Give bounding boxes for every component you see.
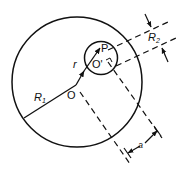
R2-dimension-arrow-bottom <box>162 48 168 62</box>
dashed-extension-lower <box>116 38 176 66</box>
label-P: P <box>101 42 108 54</box>
geometry-diagram: R1 O r P O' R2 a <box>0 0 182 171</box>
a-dimension-arrow-right <box>145 131 157 143</box>
a-dimension-tick-right <box>154 126 161 136</box>
vector-r-line <box>76 71 84 85</box>
dashed-extension-upper <box>108 22 168 50</box>
R2-dimension-arrow-top <box>145 14 151 27</box>
label-a: a <box>138 140 143 150</box>
a-dimension-tick-left <box>124 148 131 158</box>
label-R1: R1 <box>34 91 46 104</box>
label-r: r <box>73 58 78 70</box>
label-O: O <box>67 89 76 101</box>
right-angle-mark <box>106 58 112 62</box>
label-O-prime: O' <box>92 58 103 70</box>
label-R2: R2 <box>148 31 160 44</box>
